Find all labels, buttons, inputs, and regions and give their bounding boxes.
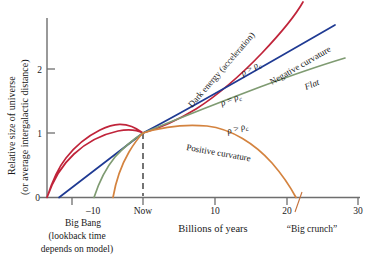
curve-dark-energy bbox=[47, 124, 143, 197]
x-tick-label-20: 20 bbox=[282, 206, 292, 216]
y-tick-label-2: 2 bbox=[37, 65, 42, 75]
label-rho-eq-green-main: ρ = ρc bbox=[218, 91, 243, 110]
y-tick-label-0: 0 bbox=[35, 193, 40, 203]
lookback-note-line1: (lookback time bbox=[48, 231, 105, 242]
big-bang-label: Big Bang bbox=[65, 218, 101, 228]
curve-positive-curvature-past bbox=[113, 133, 143, 198]
big-bang-caption: Big Bang (lookback time depends on model… bbox=[41, 218, 113, 255]
x-axis-title: Billions of years bbox=[178, 223, 247, 234]
cosmology-expansion-chart: Relative size of universe (or average in… bbox=[0, 0, 375, 259]
y-axis-label-line1: Relative size of universe bbox=[6, 76, 17, 175]
x-axis-ticks: –10 Now 10 20 30 bbox=[72, 198, 363, 217]
big-crunch-leader-line bbox=[295, 192, 302, 212]
label-rho-eq-green: ρ = ρc bbox=[218, 91, 243, 110]
y-axis-label-line2: (or average intergalactic distance) bbox=[19, 59, 31, 195]
x-tick-label-minus10: –10 bbox=[85, 206, 101, 216]
y-tick-label-1: 1 bbox=[37, 129, 42, 139]
big-crunch-label: “Big crunch” bbox=[287, 224, 337, 234]
y-axis-label: Relative size of universe (or average in… bbox=[6, 59, 31, 195]
label-rho-gt-blue-main: ρ > ρc bbox=[238, 58, 263, 79]
label-positive-curvature: Positive curvature bbox=[186, 142, 252, 163]
label-rho-gt-blue: ρ > ρc bbox=[238, 58, 263, 79]
label-flat: Flat bbox=[302, 77, 321, 92]
curve-positive-curvature-future bbox=[143, 125, 296, 197]
lookback-note-line2: depends on model) bbox=[41, 244, 113, 255]
x-tick-label-30: 30 bbox=[353, 206, 363, 216]
x-tick-label-now: Now bbox=[134, 206, 153, 216]
chart-figure: Relative size of universe (or average in… bbox=[0, 0, 375, 259]
x-tick-label-10: 10 bbox=[210, 206, 220, 216]
big-crunch-annotation: “Big crunch” bbox=[287, 192, 337, 234]
